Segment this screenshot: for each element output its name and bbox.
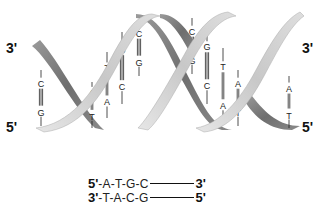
base-letter: G bbox=[135, 58, 142, 68]
base-letter: T bbox=[220, 62, 226, 72]
strand-2-start: 3' bbox=[88, 190, 98, 205]
strand-1-bases: -A-T-G-C bbox=[98, 177, 148, 191]
base-letter: A bbox=[286, 84, 292, 94]
dna-diagram: CGATTAGCCGCGGCTAATAT 3' 5' 3' 5' 5' -A-T… bbox=[0, 0, 334, 216]
strand-1-backbone-line bbox=[150, 183, 194, 184]
base-pair: AT bbox=[286, 76, 292, 128]
base-letter: G bbox=[37, 108, 44, 118]
strand-1-start: 5' bbox=[88, 176, 98, 191]
strand-1-end: 3' bbox=[196, 176, 206, 191]
base-letter: A bbox=[220, 101, 226, 111]
base-letter: C bbox=[119, 82, 126, 92]
right-bottom-end-label: 5' bbox=[302, 119, 313, 135]
base-letter: G bbox=[203, 42, 210, 52]
left-bottom-end-label: 5' bbox=[6, 119, 17, 135]
strand-2-end: 5' bbox=[196, 190, 206, 205]
base-letter: T bbox=[286, 111, 292, 121]
strand-2-bases: -T-A-C-G bbox=[98, 191, 148, 205]
strand-2-backbone-line bbox=[150, 197, 194, 198]
left-top-end-label: 3' bbox=[6, 40, 17, 56]
base-letter: T bbox=[89, 112, 95, 122]
sequence-strand-1: 5' -A-T-G-C 3' bbox=[88, 176, 206, 191]
sequence-strand-2: 3' -T-A-C-G 5' bbox=[88, 190, 206, 205]
base-letter: A bbox=[104, 97, 110, 107]
base-letter: A bbox=[235, 79, 241, 89]
right-top-end-label: 3' bbox=[302, 40, 313, 56]
base-letter: C bbox=[38, 79, 45, 89]
base-pair: CG bbox=[37, 70, 44, 126]
base-letter: C bbox=[204, 81, 211, 91]
